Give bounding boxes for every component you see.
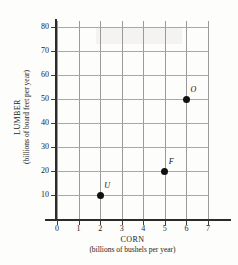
y-tick-mark	[51, 75, 56, 76]
y-tick-mark	[51, 27, 56, 28]
data-point-label-u: U	[104, 181, 110, 190]
gridline-horizontal	[57, 195, 208, 196]
gridline-horizontal	[57, 27, 208, 28]
gridline-horizontal	[57, 51, 208, 52]
y-axis-line	[55, 19, 57, 221]
y-tick-mark	[51, 51, 56, 52]
x-axis-title: CORN (billions of bushels per year)	[57, 235, 208, 254]
x-axis-title-main: CORN	[57, 235, 208, 244]
y-tick-label: 50	[33, 94, 49, 103]
y-tick-mark	[51, 195, 56, 196]
gridline-horizontal	[57, 75, 208, 76]
y-tick-label: 70	[33, 46, 49, 55]
data-point-u	[97, 192, 104, 199]
gridline-horizontal	[57, 147, 208, 148]
x-tick-label: 0	[51, 224, 63, 233]
y-tick-mark	[51, 123, 56, 124]
gridline-vertical	[208, 21, 209, 219]
y-tick-mark	[51, 147, 56, 148]
gridline-horizontal	[57, 123, 208, 124]
x-axis-line	[45, 219, 231, 221]
production-possibilities-scatter-chart: 1020304050607080 01234567 UFO CORN (bill…	[0, 0, 238, 265]
y-axis-title-units: (billions of board feet per year)	[22, 47, 31, 187]
y-tick-label: 60	[33, 70, 49, 79]
x-tick-label: 7	[202, 224, 214, 233]
x-tick-label: 3	[116, 224, 128, 233]
y-tick-label: 10	[33, 190, 49, 199]
data-point-label-f: F	[169, 157, 174, 166]
y-tick-mark	[51, 99, 56, 100]
y-axis-title: LUMBER (billions of board feet per year)	[13, 47, 31, 187]
x-tick-label: 1	[73, 224, 85, 233]
x-axis-title-units: (billions of bushels per year)	[57, 245, 208, 254]
y-tick-label: 20	[33, 166, 49, 175]
data-point-f	[161, 168, 168, 175]
y-tick-label: 80	[33, 22, 49, 31]
x-tick-label: 5	[159, 224, 171, 233]
y-tick-label: 30	[33, 142, 49, 151]
x-tick-label: 2	[94, 224, 106, 233]
y-axis-title-main: LUMBER	[13, 47, 22, 187]
data-point-label-o: O	[190, 85, 196, 94]
plot-area	[57, 21, 208, 219]
x-tick-label: 6	[180, 224, 192, 233]
gridline-horizontal	[57, 171, 208, 172]
data-point-o	[183, 96, 190, 103]
y-tick-label: 40	[33, 118, 49, 127]
x-tick-label: 4	[137, 224, 149, 233]
y-tick-mark	[51, 171, 56, 172]
